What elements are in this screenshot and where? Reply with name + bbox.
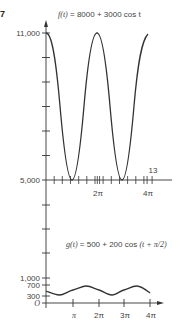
bottom-chart-title: g(t) = 500 + 200 cos (t + π/2): [66, 240, 167, 249]
f-curve: [46, 33, 148, 180]
bottom-x-label-3pi: 3π: [120, 311, 130, 320]
top-x-label-2pi: 2π: [93, 189, 103, 198]
figure-number: 7: [0, 9, 5, 19]
bottom-y-label-origin: O: [34, 299, 40, 308]
bottom-x-axis-arrow-icon: [157, 301, 164, 305]
top-x-label-4pi: 4π: [143, 189, 153, 198]
top-x-label-13: 13: [149, 166, 158, 175]
bottom-y-label-700: 700: [27, 281, 41, 290]
bottom-chart: g(t) = 500 + 200 cos (t + π/2) 1,000 700…: [20, 200, 167, 320]
top-y-label-5000: 5,000: [20, 176, 41, 185]
bottom-x-label-4pi: 4π: [146, 311, 156, 320]
bottom-x-label-2pi: 2π: [94, 311, 104, 320]
top-chart-title: f(t) = 8000 + 3000 cos t: [58, 10, 142, 19]
g-curve: [46, 286, 150, 295]
top-chart: f(t) = 8000 + 3000 cos t 11,000 5,000: [16, 10, 172, 200]
top-y-axis-arrow-icon: [44, 20, 48, 27]
figure-canvas: 7 f(t) = 8000 + 3000 cos t 11,000 5,000: [0, 0, 192, 336]
bottom-x-label-pi: π: [72, 311, 77, 320]
top-y-label-11000: 11,000: [16, 29, 40, 38]
